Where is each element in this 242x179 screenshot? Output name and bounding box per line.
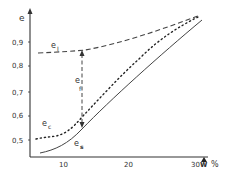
y-tick-label: 0,6 [12, 112, 24, 120]
chart: e 0,9 0,8 0,7 0,6 0,5 10 20 30 w % [0, 0, 242, 179]
series-ec-dotted-line [36, 17, 198, 139]
y-tick-label: 0,9 [12, 39, 23, 47]
x-axis-pct-label: % [211, 160, 219, 169]
y-tick-label: 0,5 [12, 137, 23, 145]
x-axis-w-label: w [200, 160, 208, 169]
y-tick-label: 0,8 [12, 62, 23, 70]
y-ticks: 0,9 0,8 0,7 0,6 0,5 [12, 39, 30, 145]
x-tick-label: 10 [59, 161, 68, 169]
x-tick-label: 20 [124, 161, 133, 169]
label-eI-main: e [51, 41, 56, 50]
x-tick-label: 30 [191, 161, 200, 169]
label-ef-main: e [75, 76, 80, 85]
label-ec: e c [42, 119, 51, 130]
x-axis-label: w % [200, 157, 219, 169]
x-ticks: 10 20 30 [59, 161, 200, 169]
label-ef: e f [75, 76, 82, 92]
label-eI: e I [51, 41, 59, 52]
label-es-sub: s [80, 143, 84, 150]
y-axis-label: e [19, 13, 25, 23]
label-es: e s [74, 139, 84, 150]
label-es-main: e [74, 139, 79, 148]
series-eI-dashed-line [38, 16, 198, 53]
label-ec-main: e [42, 119, 47, 128]
label-eI-sub: I [57, 45, 59, 52]
y-tick-label: 0,7 [12, 89, 23, 97]
label-ec-sub: c [48, 123, 51, 130]
y-axis [28, 8, 33, 157]
